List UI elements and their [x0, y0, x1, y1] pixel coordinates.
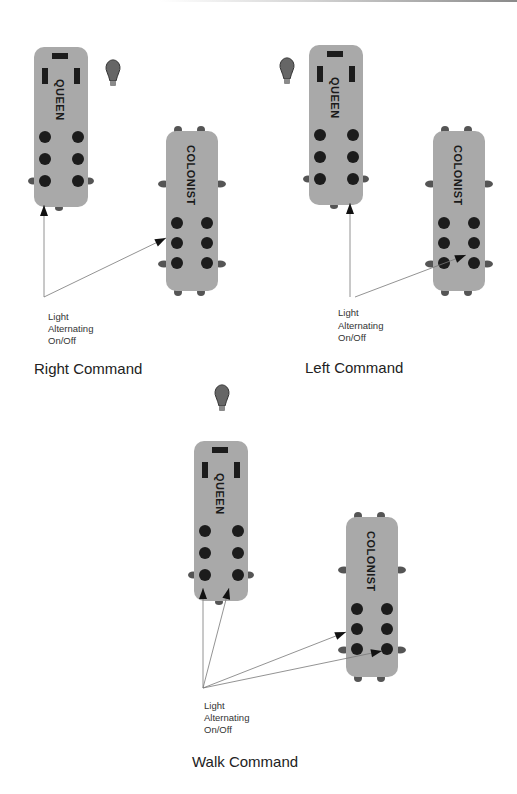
arrows — [40, 205, 166, 297]
wheel — [39, 175, 51, 187]
wheel — [171, 217, 183, 229]
light-note-line2: Alternating — [204, 712, 249, 723]
wheel — [314, 129, 326, 141]
bulb-glass — [106, 60, 120, 81]
wheel — [171, 257, 183, 269]
wheel — [438, 217, 450, 229]
light-note-line3: On/Off — [204, 724, 232, 735]
queen-label: QUEEN — [214, 473, 226, 515]
light-note-line2: Alternating — [48, 323, 93, 334]
queen-robot: QUEEN — [28, 47, 94, 211]
bulb-base — [284, 79, 290, 84]
bulb-base — [110, 81, 116, 86]
sensor-slot — [52, 53, 68, 59]
wheel — [72, 153, 84, 165]
sensor-slot — [327, 51, 343, 57]
wheel — [39, 131, 51, 143]
wheel — [351, 623, 363, 635]
sensor-slot — [212, 447, 228, 453]
wheel — [347, 151, 359, 163]
light-bulb-icon — [280, 58, 294, 84]
sensor-slot — [202, 462, 208, 478]
sensor-slot — [234, 462, 240, 478]
wheel — [347, 129, 359, 141]
bulb-base — [219, 406, 225, 411]
colonist-label: COLONIST — [452, 145, 464, 206]
light-note-line1: Light — [48, 311, 69, 322]
wheel — [232, 525, 244, 537]
light-note-line3: On/Off — [338, 332, 366, 343]
wheel — [72, 175, 84, 187]
queen-label: QUEEN — [54, 79, 66, 121]
wheel — [351, 643, 363, 655]
wheel — [381, 623, 393, 635]
wheel — [438, 237, 450, 249]
command-diagram: QUEEN COLONIST Light Alternating On/Off … — [0, 0, 517, 794]
panel-left-command: QUEEN COLONIST Light Alternating On/Off … — [280, 45, 493, 376]
wheel — [468, 237, 480, 249]
panel-caption: Walk Command — [192, 753, 298, 770]
sensor-slot — [74, 68, 80, 84]
panel-walk-command: QUEEN COLONIST Light Alternating On/Off … — [188, 385, 406, 770]
queen-robot: QUEEN — [188, 441, 254, 605]
wheel — [351, 603, 363, 615]
light-note-line2: Alternating — [338, 320, 383, 331]
light-note-line3: On/Off — [48, 335, 76, 346]
colonist-robot: COLONIST — [425, 126, 493, 296]
wheel — [199, 525, 211, 537]
panel-caption: Left Command — [305, 359, 403, 376]
wheel — [201, 217, 213, 229]
colonist-label: COLONIST — [185, 145, 197, 206]
wheel — [171, 237, 183, 249]
wheel — [314, 151, 326, 163]
arrow-head — [154, 238, 166, 246]
light-note-line1: Light — [204, 700, 225, 711]
arrow-head — [334, 632, 346, 640]
wheel — [199, 569, 211, 581]
colonist-robot: COLONIST — [158, 126, 226, 296]
wheel — [381, 643, 393, 655]
panel-caption: Right Command — [34, 360, 142, 377]
sensor-slot — [349, 66, 355, 82]
sensor-slot — [317, 66, 323, 82]
light-bulb-icon — [106, 60, 120, 86]
wheel — [314, 173, 326, 185]
arrow-line — [203, 632, 346, 688]
wheel — [199, 547, 211, 559]
wheel — [39, 153, 51, 165]
panel-right-command: QUEEN COLONIST Light Alternating On/Off … — [28, 47, 226, 377]
wheel — [201, 257, 213, 269]
sensor-slot — [42, 68, 48, 84]
queen-robot: QUEEN — [303, 45, 369, 209]
wheel — [381, 603, 393, 615]
colonist-label: COLONIST — [365, 531, 377, 592]
wheel — [232, 569, 244, 581]
wheel — [72, 131, 84, 143]
wheel — [232, 547, 244, 559]
wheel — [201, 237, 213, 249]
bulb-glass — [280, 58, 294, 79]
wheel — [468, 257, 480, 269]
wheel — [468, 217, 480, 229]
light-bulb-icon — [215, 385, 229, 411]
wheel — [347, 173, 359, 185]
arrow-line — [44, 238, 166, 297]
queen-label: QUEEN — [329, 77, 341, 119]
light-note-line1: Light — [338, 307, 359, 318]
bulb-glass — [215, 385, 229, 406]
